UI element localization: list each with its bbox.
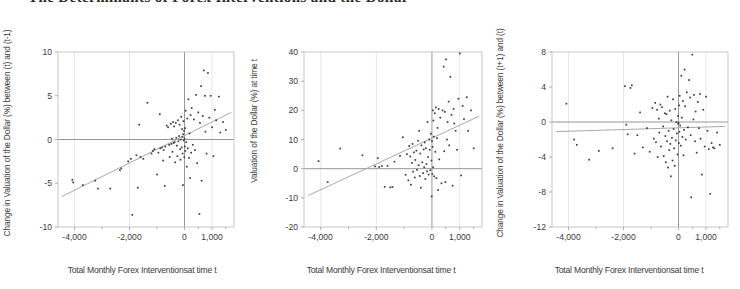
data-point [183,156,185,158]
data-point [181,128,183,130]
data-point [674,165,676,167]
data-point [446,139,448,141]
data-point [423,149,425,151]
data-point [707,130,709,132]
data-point [447,121,449,123]
y-tick-label: -10 [286,193,299,203]
data-point [399,155,401,157]
figure-root: The Determinants of Forex Interventions … [0,0,740,289]
data-point [180,116,182,118]
data-point [432,166,434,168]
data-point [470,110,472,112]
data-point [179,124,181,126]
data-point [162,160,164,162]
data-point [318,160,320,162]
data-point [210,95,212,97]
data-point [669,143,671,145]
data-point [451,114,453,116]
scatter-plot-3: -12-8-4048-4,000-2,00001,000 [494,10,740,289]
data-point [434,112,436,114]
data-point [686,91,688,93]
data-point [168,144,170,146]
data-point [467,130,469,132]
scatter-plot-2: -20-10010203040-4,000-2,00001,000 [248,10,494,289]
data-point [203,70,205,72]
data-point [190,114,192,116]
data-point [666,113,668,115]
data-point [691,54,693,56]
data-point [670,175,672,177]
data-point [573,139,575,141]
data-point [176,145,178,147]
data-point [661,106,663,108]
data-point [627,133,629,135]
data-point [693,119,695,121]
data-point [156,174,158,176]
data-point [624,85,626,87]
data-point [612,147,614,149]
data-point [189,133,191,135]
data-point [656,109,658,111]
data-point [327,181,329,183]
data-point [416,169,418,171]
x-axis-label-2: Total Monthly Forex Interventionsat time… [248,265,504,275]
y-tick-label: 10 [288,135,298,145]
chart-panel-2: Valuation of the Dollar (%) at time t -2… [248,10,494,289]
data-point [654,102,656,104]
data-point [188,98,190,100]
data-point [174,141,176,143]
data-point [411,162,413,164]
y-tick-label: 4 [541,82,546,92]
x-tick-label: -4,000 [62,232,87,242]
data-point [673,147,675,149]
data-point [206,153,208,155]
scatter-plot-1: -10-50510-4,000-2,00001,000 [0,10,248,289]
data-point [445,58,447,60]
data-point [690,196,692,198]
data-point [131,214,133,216]
data-point [193,119,195,121]
data-point [462,105,464,107]
data-point [418,130,420,132]
data-point [200,85,202,87]
data-point [171,138,173,140]
data-point [188,157,190,159]
data-point [187,147,189,149]
chart-panel-1: Change in Valuation of the Dollar (%) be… [0,10,248,289]
data-point [178,135,180,137]
data-point [444,111,446,113]
data-point [384,186,386,188]
data-point [421,161,423,163]
data-point [417,140,419,142]
data-point [424,142,426,144]
data-point [433,175,435,177]
data-point [172,121,174,123]
data-point [137,187,139,189]
data-point [185,150,187,152]
data-point [682,136,684,138]
data-point [642,147,644,149]
data-point [381,165,383,167]
data-point [448,145,450,147]
data-point [636,134,638,136]
data-point [660,104,662,106]
data-point [207,72,209,74]
x-tick-label: -2,000 [117,232,142,242]
data-point [428,174,430,176]
data-point [683,129,685,131]
data-point [182,184,184,186]
data-point [678,142,680,144]
data-point [215,119,217,121]
data-point [682,100,684,102]
data-point [463,118,465,120]
plot-area-3: -12-8-4048-4,000-2,00001,000 [494,10,740,289]
x-tick-label: 1,000 [201,232,223,242]
data-point [186,118,188,120]
data-point [443,66,445,68]
data-point [192,144,194,146]
data-point [690,134,692,136]
trend-line [308,116,479,195]
data-point [167,126,169,128]
data-point [177,155,179,157]
data-point [389,187,391,189]
